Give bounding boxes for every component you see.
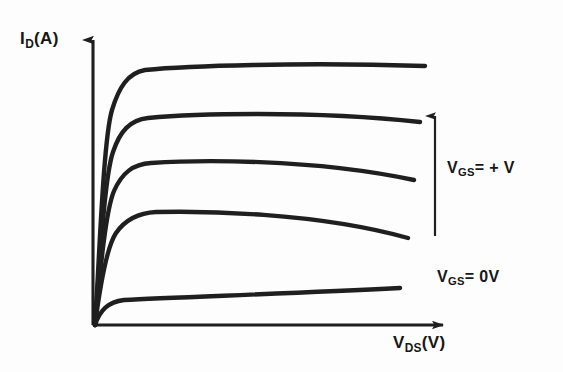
vgs-zero-subscript: GS (448, 275, 465, 287)
y-axis-unit: (A) (34, 29, 59, 48)
vgs-zero-symbol: V (437, 268, 448, 285)
axis-group (93, 40, 443, 325)
curve-1-vgs-zero (95, 288, 400, 325)
vgs-positive-annotation: VGS= + V (447, 159, 515, 178)
x-axis-unit: (V) (422, 333, 446, 352)
drain-characteristics-plot (0, 0, 563, 372)
curve-5-highest-vgs (95, 64, 425, 325)
x-axis-symbol: V (393, 333, 405, 352)
curve-group (95, 64, 425, 325)
figure-root: ID(A) VDS(V) VGS= + V VGS= 0V (0, 0, 563, 372)
curve-2 (95, 212, 408, 325)
x-axis-label: VDS(V) (393, 333, 446, 355)
vgs-zero-value: = 0V (465, 268, 500, 285)
y-axis-subscript: D (25, 37, 34, 51)
x-axis-subscript: DS (405, 341, 422, 355)
y-axis-label: ID(A) (20, 29, 59, 51)
vgs-positive-value: = + V (475, 159, 515, 176)
vgs-zero-annotation: VGS= 0V (437, 268, 500, 287)
vgs-positive-symbol: V (447, 159, 458, 176)
vgs-positive-subscript: GS (458, 166, 475, 178)
